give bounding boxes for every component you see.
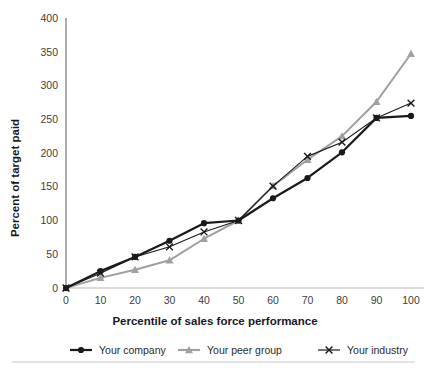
x-tick-label: 30 [164,294,176,306]
y-tick-label: 0 [52,282,58,294]
y-tick-label: 50 [46,248,58,260]
y-tick-label: 300 [40,79,58,91]
x-axis-title: Percentile of sales force performance [112,315,317,327]
y-tick-label: 400 [40,12,58,24]
legend-label: Your industry [347,344,409,356]
data-point-marker [132,254,138,260]
legend-label: Your company [99,344,166,356]
x-tick-label: 20 [129,294,141,306]
x-tick-label: 40 [198,294,210,306]
data-point-marker [201,220,207,226]
data-point-marker [166,238,172,244]
x-tick-label: 90 [371,294,383,306]
y-tick-label: 250 [40,113,58,125]
data-point-marker [408,113,414,119]
x-tick-label: 10 [95,294,107,306]
y-tick-label: 100 [40,214,58,226]
line-circle-marker-icon [78,347,84,353]
legend-label: Your peer group [207,344,282,356]
x-tick-label: 60 [267,294,279,306]
data-point-marker [339,149,345,155]
data-point-marker [270,195,276,201]
y-axis-title: Percent of target paid [9,119,21,237]
data-point-marker [97,268,103,274]
x-tick-label: 100 [402,294,420,306]
x-tick-label: 70 [302,294,314,306]
x-tick-label: 50 [233,294,245,306]
y-tick-label: 350 [40,46,58,58]
data-point-marker [304,175,310,181]
data-point-marker [63,285,69,291]
chart-figure: Percent of target paid 400 350 300 250 2… [0,0,427,372]
y-tick-label: 200 [40,147,58,159]
x-tick-label: 80 [336,294,348,306]
y-tick-label: 150 [40,180,58,192]
x-tick-label: 0 [63,294,69,306]
data-point-marker [235,217,241,223]
data-point-marker [373,115,379,121]
chart-legend: Your companyYour peer groupYour industry [70,344,409,356]
